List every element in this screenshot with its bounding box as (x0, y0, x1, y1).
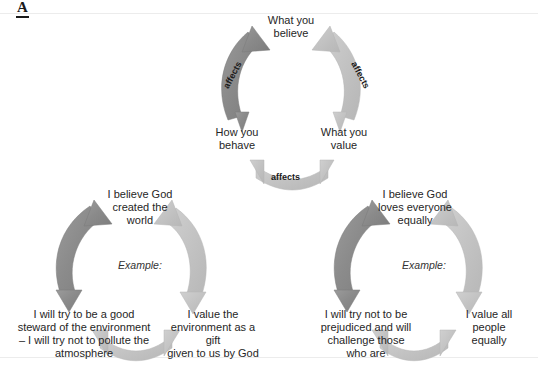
example-label: Example: (388, 259, 460, 271)
node-belief-statement: I believe God loves everyone equally (364, 188, 466, 227)
node-how-you-behave: How you behave (191, 126, 283, 152)
node-behaviour-statement: I will try not to be prejudiced and will… (300, 308, 432, 360)
node-what-you-believe: What you believe (241, 14, 341, 40)
node-what-you-value: What you value (298, 126, 390, 152)
node-value-statement: I value all people equally (450, 308, 528, 347)
node-behaviour-statement: I will try to be a good steward of the e… (10, 308, 158, 360)
section-letter: A (16, 0, 29, 18)
node-belief-statement: I believe God created the world (92, 188, 188, 227)
arrow-believe-to-value (312, 26, 360, 132)
node-value-statement: I value the environment as a gift given … (166, 308, 260, 360)
example-label: Example: (104, 259, 176, 271)
diagram-belief-value-behaviour-cycle: What you believe How you behave What you… (186, 8, 396, 193)
edge-label-value-to-behave: affects (271, 172, 300, 182)
diagram-example-environment-cycle: I believe God created the world I will t… (8, 186, 260, 366)
diagram-example-equality-cycle: I believe God loves everyone equally I w… (292, 186, 532, 366)
